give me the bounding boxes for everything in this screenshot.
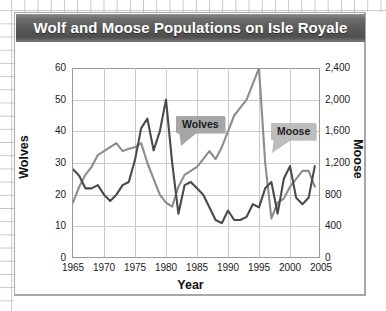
ytick-left-50: 50 xyxy=(22,94,66,105)
ytick-right-400: 400 xyxy=(325,220,369,231)
series-lines xyxy=(73,68,321,258)
xtick-1970: 1970 xyxy=(87,262,121,273)
ytick-left-10: 10 xyxy=(22,220,66,231)
ytick-right-2400: 2,400 xyxy=(325,62,369,73)
chart-page: Wolf and Moose Populations on Isle Royal… xyxy=(0,0,386,311)
xtick-1990: 1990 xyxy=(211,262,245,273)
callout-wolves-tail xyxy=(179,131,201,147)
xtick-2005: 2005 xyxy=(304,262,338,273)
y-axis-title-left: Wolves xyxy=(17,135,31,179)
x-axis-title: Year xyxy=(16,278,365,292)
ytick-right-1600: 1,600 xyxy=(325,125,369,136)
xtick-1980: 1980 xyxy=(149,262,183,273)
chart-card: Wolf and Moose Populations on Isle Royal… xyxy=(14,12,366,296)
ytick-right-800: 800 xyxy=(325,189,369,200)
plot-wrapper: 0 10 20 30 40 50 60 0 400 800 1,200 1,60… xyxy=(16,42,365,295)
chart-title-bar: Wolf and Moose Populations on Isle Royal… xyxy=(16,14,365,42)
y-axis-title-right: Moose xyxy=(351,139,365,179)
xtick-1975: 1975 xyxy=(118,262,152,273)
xtick-2000: 2000 xyxy=(273,262,307,273)
ytick-right-2000: 2,000 xyxy=(325,94,369,105)
plot-area xyxy=(72,68,320,258)
xtick-1995: 1995 xyxy=(242,262,276,273)
ytick-left-20: 20 xyxy=(22,189,66,200)
chart-title: Wolf and Moose Populations on Isle Royal… xyxy=(16,14,365,42)
ytick-left-60: 60 xyxy=(22,62,66,73)
xtick-1985: 1985 xyxy=(180,262,214,273)
callout-moose-tail xyxy=(272,138,294,154)
xtick-1965: 1965 xyxy=(56,262,90,273)
